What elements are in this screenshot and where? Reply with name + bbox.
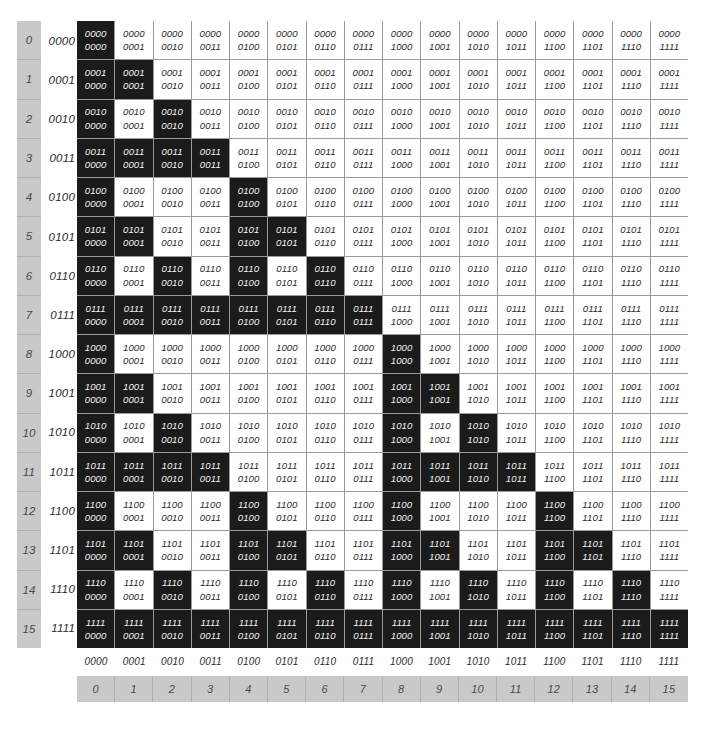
matrix-cell[interactable]: 00110111 xyxy=(345,139,382,177)
matrix-cell[interactable]: 11101000 xyxy=(383,571,420,609)
matrix-cell[interactable]: 01110111 xyxy=(345,296,382,334)
matrix-cell[interactable]: 01111010 xyxy=(460,296,497,334)
matrix-cell[interactable]: 11001000 xyxy=(383,492,420,530)
matrix-cell[interactable]: 10100100 xyxy=(230,414,267,452)
matrix-cell[interactable]: 10000010 xyxy=(154,335,191,373)
matrix-cell[interactable]: 10011000 xyxy=(383,374,420,412)
matrix-cell[interactable]: 00111111 xyxy=(651,139,688,177)
matrix-cell[interactable]: 11011011 xyxy=(498,531,535,569)
matrix-cell[interactable]: 11011000 xyxy=(383,531,420,569)
matrix-cell[interactable]: 10100000 xyxy=(77,414,114,452)
matrix-cell[interactable]: 11000011 xyxy=(192,492,229,530)
matrix-cell[interactable]: 11100010 xyxy=(154,571,191,609)
matrix-cell[interactable]: 11101010 xyxy=(460,571,497,609)
matrix-cell[interactable]: 00000000 xyxy=(77,21,114,59)
matrix-cell[interactable]: 11000010 xyxy=(154,492,191,530)
matrix-cell[interactable]: 01001010 xyxy=(460,178,497,216)
matrix-cell[interactable]: 01111111 xyxy=(651,296,688,334)
matrix-cell[interactable]: 10110000 xyxy=(77,453,114,491)
matrix-cell[interactable]: 01110000 xyxy=(77,296,114,334)
matrix-cell[interactable]: 11101100 xyxy=(536,571,573,609)
matrix-cell[interactable]: 11011010 xyxy=(460,531,497,569)
matrix-cell[interactable]: 10001111 xyxy=(651,335,688,373)
matrix-cell[interactable]: 00111100 xyxy=(536,139,573,177)
matrix-cell[interactable]: 01111000 xyxy=(383,296,420,334)
matrix-cell[interactable]: 11000000 xyxy=(77,492,114,530)
matrix-cell[interactable]: 00101011 xyxy=(498,100,535,138)
matrix-cell[interactable]: 10011010 xyxy=(460,374,497,412)
matrix-cell[interactable]: 01001000 xyxy=(383,178,420,216)
matrix-cell[interactable]: 10001100 xyxy=(536,335,573,373)
matrix-cell[interactable]: 01010011 xyxy=(192,217,229,255)
matrix-cell[interactable]: 01011111 xyxy=(651,217,688,255)
matrix-cell[interactable]: 10011100 xyxy=(536,374,573,412)
matrix-cell[interactable]: 01001011 xyxy=(498,178,535,216)
matrix-cell[interactable]: 01001100 xyxy=(536,178,573,216)
matrix-cell[interactable]: 11100001 xyxy=(115,571,152,609)
matrix-cell[interactable]: 11111111 xyxy=(651,610,688,648)
matrix-cell[interactable]: 01100100 xyxy=(230,257,267,295)
matrix-cell[interactable]: 01011010 xyxy=(460,217,497,255)
matrix-cell[interactable]: 11111011 xyxy=(498,610,535,648)
matrix-cell[interactable]: 01010010 xyxy=(154,217,191,255)
matrix-cell[interactable]: 10100101 xyxy=(268,414,305,452)
matrix-cell[interactable]: 01101000 xyxy=(383,257,420,295)
matrix-cell[interactable]: 01110100 xyxy=(230,296,267,334)
matrix-cell[interactable]: 00001000 xyxy=(383,21,420,59)
matrix-cell[interactable]: 00011101 xyxy=(574,60,611,98)
matrix-cell[interactable]: 10110001 xyxy=(115,453,152,491)
matrix-cell[interactable]: 01111011 xyxy=(498,296,535,334)
matrix-cell[interactable]: 10001000 xyxy=(383,335,420,373)
matrix-cell[interactable]: 00100001 xyxy=(115,100,152,138)
matrix-cell[interactable]: 11001010 xyxy=(460,492,497,530)
matrix-cell[interactable]: 00100111 xyxy=(345,100,382,138)
matrix-cell[interactable]: 01110001 xyxy=(115,296,152,334)
matrix-cell[interactable]: 10101100 xyxy=(536,414,573,452)
matrix-cell[interactable]: 11010010 xyxy=(154,531,191,569)
matrix-cell[interactable]: 01100011 xyxy=(192,257,229,295)
matrix-cell[interactable]: 11101011 xyxy=(498,571,535,609)
matrix-cell[interactable]: 11110101 xyxy=(268,610,305,648)
matrix-cell[interactable]: 00010110 xyxy=(307,60,344,98)
matrix-cell[interactable]: 00010010 xyxy=(154,60,191,98)
matrix-cell[interactable]: 01000111 xyxy=(345,178,382,216)
matrix-cell[interactable]: 00010100 xyxy=(230,60,267,98)
matrix-cell[interactable]: 01110110 xyxy=(307,296,344,334)
matrix-cell[interactable]: 10111111 xyxy=(651,453,688,491)
matrix-cell[interactable]: 10110100 xyxy=(230,453,267,491)
matrix-cell[interactable]: 11010100 xyxy=(230,531,267,569)
matrix-cell[interactable]: 00111101 xyxy=(574,139,611,177)
matrix-cell[interactable]: 00111011 xyxy=(498,139,535,177)
matrix-cell[interactable]: 00110101 xyxy=(268,139,305,177)
matrix-cell[interactable]: 10111110 xyxy=(613,453,650,491)
matrix-cell[interactable]: 00000110 xyxy=(307,21,344,59)
matrix-cell[interactable]: 10111101 xyxy=(574,453,611,491)
matrix-cell[interactable]: 01011101 xyxy=(574,217,611,255)
matrix-cell[interactable]: 10000111 xyxy=(345,335,382,373)
matrix-cell[interactable]: 11000101 xyxy=(268,492,305,530)
matrix-cell[interactable]: 11001110 xyxy=(613,492,650,530)
matrix-cell[interactable]: 00010101 xyxy=(268,60,305,98)
matrix-cell[interactable]: 01111110 xyxy=(613,296,650,334)
matrix-cell[interactable]: 00110100 xyxy=(230,139,267,177)
matrix-cell[interactable]: 10101001 xyxy=(421,414,458,452)
matrix-cell[interactable]: 01111100 xyxy=(536,296,573,334)
matrix-cell[interactable]: 01100001 xyxy=(115,257,152,295)
matrix-cell[interactable]: 00001110 xyxy=(613,21,650,59)
matrix-cell[interactable]: 11001001 xyxy=(421,492,458,530)
matrix-cell[interactable]: 01000010 xyxy=(154,178,191,216)
matrix-cell[interactable]: 11001011 xyxy=(498,492,535,530)
matrix-cell[interactable]: 00101010 xyxy=(460,100,497,138)
matrix-cell[interactable]: 01011001 xyxy=(421,217,458,255)
matrix-cell[interactable]: 00110001 xyxy=(115,139,152,177)
matrix-cell[interactable]: 00110110 xyxy=(307,139,344,177)
matrix-cell[interactable]: 10011101 xyxy=(574,374,611,412)
matrix-cell[interactable]: 00011010 xyxy=(460,60,497,98)
matrix-cell[interactable]: 11000001 xyxy=(115,492,152,530)
matrix-cell[interactable]: 10111100 xyxy=(536,453,573,491)
matrix-cell[interactable]: 10000100 xyxy=(230,335,267,373)
matrix-cell[interactable]: 01101101 xyxy=(574,257,611,295)
matrix-cell[interactable]: 10100110 xyxy=(307,414,344,452)
matrix-cell[interactable]: 11010011 xyxy=(192,531,229,569)
matrix-cell[interactable]: 01101001 xyxy=(421,257,458,295)
